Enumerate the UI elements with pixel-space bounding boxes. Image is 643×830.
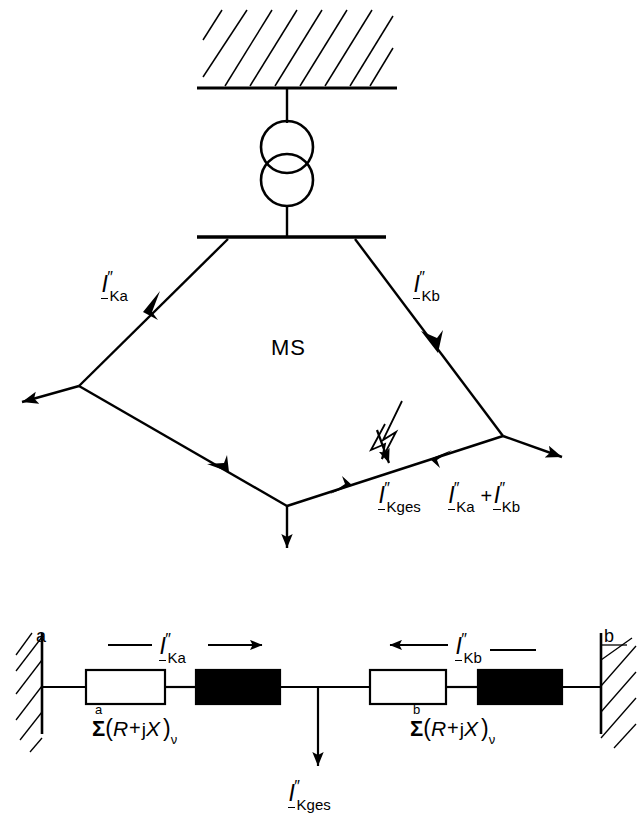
feeder-branch-a [79,239,228,386]
summation-upper-limit-a: a [95,703,102,716]
impedance-box-b-reactive [478,670,562,704]
transformer-winding-primary-icon [261,121,313,173]
double-prime: ″ [383,480,389,497]
terminal-label-b: b [604,627,614,645]
reactance-symbol: X [146,717,160,740]
current-subscript: Kges [387,498,421,515]
double-prime: ″ [499,480,505,497]
equation-term-b: I″Kb [493,483,525,511]
label-current-kb-circuit: I″Kb [455,634,487,662]
current-subscript: Kb [464,649,482,666]
summation-upper-limit-b: b [413,703,420,716]
equation-total-term: I″Kges [378,483,426,511]
double-prime: ″ [418,269,424,286]
current-subscript: Kges [297,796,331,813]
summation-index-nu: ν [489,732,496,747]
reactance-symbol: X [464,717,478,740]
fault-current-equation: I″Kges I″Ka + I″Kb [378,483,525,511]
current-subscript: Ka [456,498,474,515]
current-subscript: Ka [168,649,186,666]
branch-b-direction-arrow [421,330,443,353]
double-prime: ″ [164,631,170,648]
equation-plus-operator: + [480,485,494,507]
network-label-ms: MS [271,337,306,359]
double-prime: ″ [293,778,299,795]
close-paren: ) [481,715,489,741]
impedance-box-a-resistive [86,670,165,704]
terminal-b-hatching-icon [601,638,636,748]
impedance-formula-a: aΣ (R+jX)ν [92,716,177,743]
label-current-kb-branch: I″Kb [413,272,445,300]
line-left-bottom-direction-arrow [207,455,229,472]
current-subscript: Kb [502,498,520,515]
double-prime: ″ [460,631,466,648]
current-subscript: Kb [422,287,440,304]
close-paren: ) [163,715,171,741]
double-prime: ″ [453,480,459,497]
summation-sigma-icon: Σ [92,716,105,741]
impedance-box-b-resistive [370,670,446,704]
plus-operator: + [446,717,460,739]
impedance-formula-b: bΣ (R+jX)ν [410,716,495,743]
terminal-label-a: a [36,627,46,645]
branch-a-direction-arrow [143,291,160,320]
open-paren: ( [423,715,431,741]
load-arrow-left [22,386,79,402]
summation-index-nu: ν [171,732,178,747]
label-current-ka-branch: I″Ka [101,272,133,300]
load-arrow-right [503,436,562,457]
impedance-box-a-reactive [196,670,280,704]
resistance-symbol: R [113,717,128,740]
terminal-a-hatching-icon [16,633,42,752]
figure-root: I″Ka I″Kb MS I″Kges I″Ka + I″Kb a b I″Ka… [0,0,643,830]
double-prime: ″ [106,269,112,286]
current-subscript: Ka [110,287,128,304]
plus-operator: + [128,717,142,739]
label-current-kges-circuit: I″Kges [288,781,336,809]
resistance-symbol: R [431,717,446,740]
open-paren: ( [105,715,113,741]
source-hatching-icon [203,10,393,88]
equation-term-a: I″Ka [448,483,480,511]
label-current-ka-circuit: I″Ka [159,634,191,662]
line-left-to-bottom [79,386,287,506]
short-circuit-lightning-icon [371,401,402,459]
summation-sigma-icon: Σ [410,716,423,741]
transformer-winding-secondary-icon [261,154,313,206]
